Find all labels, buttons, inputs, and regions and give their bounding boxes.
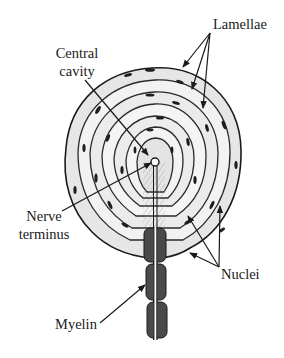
label-central-cavity: Central cavity — [42, 46, 112, 79]
central-cavity — [151, 158, 159, 166]
nerve-fiber-core — [154, 226, 157, 340]
label-nerve-terminus-line2: terminus — [14, 227, 74, 242]
label-central-cavity-line2: cavity — [42, 64, 112, 79]
label-myelin: Myelin — [55, 317, 97, 332]
label-nerve-terminus-line1: Nerve — [14, 209, 74, 224]
label-central-cavity-line1: Central — [42, 46, 112, 61]
label-nuclei: Nuclei — [221, 267, 260, 282]
label-nerve-terminus: Nerve terminus — [14, 209, 74, 242]
label-lamellae: Lamellae — [213, 17, 267, 32]
